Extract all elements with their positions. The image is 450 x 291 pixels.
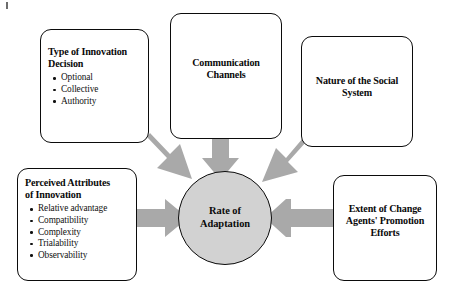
title-line-3: Efforts [341, 227, 429, 239]
node-extent-of-change-agents-promotion-efforts: Extent of Change Agents' Promotion Effor… [333, 175, 437, 281]
node-title-communication-channels: Communication Channels [178, 57, 274, 81]
list-item: Observability [38, 250, 129, 262]
node-title-extent-of-change-agents-promotion-efforts: Extent of Change Agents' Promotion Effor… [341, 203, 429, 240]
node-title-perceived-attributes-of-innovation: Perceived Attributes of Innovation [25, 177, 129, 201]
title-line-1: Extent of Change [341, 203, 429, 215]
arrow-from-nature-of-the-social-system [262, 138, 306, 182]
node-type-of-innovation-decision: Type of Innovation Decision Optional Col… [40, 29, 149, 143]
list-item: Authority [61, 96, 141, 108]
node-title-nature-of-the-social-system: Nature of the Social System [309, 75, 405, 99]
title-line-2: of Innovation [25, 189, 129, 201]
node-communication-channels: Communication Channels [170, 13, 282, 139]
list-item: Compatibility [38, 215, 129, 227]
title-line-2: Decision [48, 58, 141, 70]
center-node-rate-of-adaptation: Rate of Adaptation [178, 171, 272, 265]
list-item: Complexity [38, 227, 129, 239]
center-node-label: Rate of Adaptation [200, 205, 250, 230]
diagram-canvas: Rate of Adaptation Type of Innovation De… [0, 0, 450, 291]
list-item: Relative advantage [38, 203, 129, 215]
title-line-1: Nature of the Social [309, 75, 405, 87]
bullet-list-type-of-innovation-decision: Optional Collective Authority [48, 72, 141, 107]
title-line-2: Agents' Promotion [341, 215, 429, 227]
scan-artifact-mark [6, 2, 8, 9]
list-item: Optional [61, 72, 141, 84]
title-line-1: Communication [178, 57, 274, 69]
title-line-2: Channels [178, 69, 274, 81]
center-node-label-line1: Rate of [200, 205, 250, 218]
list-item: Trialability [38, 238, 129, 250]
arrow-from-type-of-innovation-decision [147, 133, 192, 179]
center-node-label-line2: Adaptation [200, 218, 250, 231]
node-nature-of-the-social-system: Nature of the Social System [301, 36, 413, 147]
arrow-from-extent-of-change-agents [265, 199, 333, 237]
node-perceived-attributes-of-innovation: Perceived Attributes of Innovation Relat… [17, 168, 137, 281]
node-title-type-of-innovation-decision: Type of Innovation Decision [48, 46, 141, 70]
bullet-list-perceived-attributes-of-innovation: Relative advantage Compatibility Complex… [25, 203, 129, 261]
title-line-1: Type of Innovation [48, 46, 141, 58]
title-line-2: System [309, 87, 405, 99]
title-line-1: Perceived Attributes [25, 177, 129, 189]
list-item: Collective [61, 84, 141, 96]
